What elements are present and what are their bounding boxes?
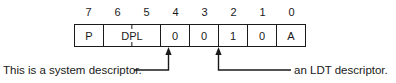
arrowhead-up-icon <box>215 47 221 55</box>
dpl-tick-bottom-icon <box>131 42 132 46</box>
bit-number-row: 7 6 5 4 3 2 1 0 <box>74 4 306 20</box>
annotation-system-descriptor: This is a system descriptor. <box>3 63 142 77</box>
field-label-bit3: 0 <box>201 30 207 42</box>
field-label-present: P <box>85 30 92 42</box>
bit-number-0: 0 <box>277 4 306 20</box>
bitfield-row: P DPL 0 0 1 0 A <box>74 24 306 47</box>
field-cell-accessed: A <box>277 25 305 46</box>
bit-number-1: 1 <box>248 4 277 20</box>
field-cell-present: P <box>75 25 104 46</box>
field-label-accessed: A <box>287 30 294 42</box>
dpl-tick-top-icon <box>131 25 132 29</box>
bit-number-4: 4 <box>161 4 190 20</box>
field-cell-dpl: DPL <box>104 25 161 46</box>
annotation-ldt-descriptor: an LDT descriptor. <box>294 63 388 77</box>
bit-number-5: 5 <box>132 4 161 20</box>
field-cell-bit3: 0 <box>190 25 219 46</box>
bit-number-6: 6 <box>103 4 132 20</box>
field-label-bit2: 1 <box>230 30 236 42</box>
field-label-dpl: DPL <box>121 30 142 42</box>
leader-line-ldt-descriptor <box>215 47 291 70</box>
field-cell-bit1: 0 <box>248 25 277 46</box>
field-label-bit1: 0 <box>259 30 265 42</box>
field-cell-bit4: 0 <box>161 25 190 46</box>
field-label-bit4: 0 <box>172 30 178 42</box>
bitfield-diagram: 7 6 5 4 3 2 1 0 P DPL 0 0 1 0 A <box>0 0 396 83</box>
arrowhead-up-icon <box>165 47 171 55</box>
field-cell-bit2: 1 <box>219 25 248 46</box>
bit-number-3: 3 <box>190 4 219 20</box>
bit-number-2: 2 <box>219 4 248 20</box>
bit-number-7: 7 <box>74 4 103 20</box>
